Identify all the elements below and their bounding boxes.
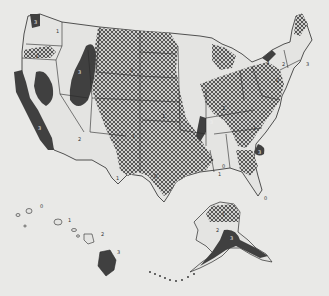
aleutian-islands	[149, 271, 195, 282]
svg-text:2: 2	[36, 53, 39, 59]
svg-text:1: 1	[253, 125, 256, 131]
svg-text:3: 3	[117, 249, 120, 255]
svg-text:0: 0	[264, 195, 267, 201]
svg-text:3: 3	[38, 125, 41, 131]
svg-text:3: 3	[266, 59, 269, 65]
svg-text:1: 1	[162, 113, 165, 119]
svg-text:1: 1	[218, 171, 221, 177]
svg-text:1: 1	[68, 217, 71, 223]
svg-text:1: 1	[132, 133, 135, 139]
svg-text:1: 1	[116, 175, 119, 181]
svg-text:0: 0	[154, 173, 157, 179]
svg-text:1: 1	[222, 211, 225, 217]
svg-text:1: 1	[56, 28, 59, 34]
svg-text:3: 3	[258, 149, 261, 155]
svg-text:2: 2	[282, 61, 285, 67]
svg-text:3: 3	[210, 119, 213, 125]
svg-text:2: 2	[101, 231, 104, 237]
svg-text:2: 2	[216, 227, 219, 233]
svg-text:2: 2	[222, 105, 225, 111]
svg-text:3: 3	[34, 19, 37, 25]
svg-text:0: 0	[222, 163, 225, 169]
svg-text:2: 2	[130, 67, 133, 73]
hawaii	[16, 209, 116, 277]
svg-text:3: 3	[230, 235, 233, 241]
svg-text:0: 0	[40, 203, 43, 209]
svg-text:3: 3	[306, 61, 309, 67]
seismic-zone-map: 3 1 2 3 3 2 2 1 1 0 1 3 2 1 3 0 0 1 3 2 …	[0, 0, 329, 296]
svg-text:3: 3	[78, 69, 81, 75]
svg-text:2: 2	[276, 77, 279, 83]
svg-text:2: 2	[78, 136, 81, 142]
